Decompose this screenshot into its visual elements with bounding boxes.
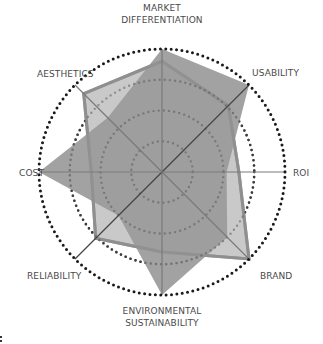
axis-label-environmental-sustainability: ENVIRONMENTALSUSTAINABILITY [123,306,202,328]
axis-label-line: AESTHETICS [37,69,94,79]
axis-label-line: MARKET [143,3,181,13]
axis-label-brand: BRAND [260,271,292,281]
axis-label-line: USABILITY [252,68,299,78]
axis-label-line: ROI [293,168,309,178]
axis-label-line: COST [19,168,44,178]
axis-label-roi: ROI [293,168,309,178]
axis-label-cost: COST [19,168,44,178]
axis-label-line: BRAND [260,271,292,281]
corner-mark [0,336,3,343]
axis-label-market-differentiation: MARKETDIFFERENTIATION [121,3,202,25]
axis-label-aesthetics: AESTHETICS [37,69,94,79]
axis-label-line: ENVIRONMENTAL [123,306,202,316]
axis-label-reliability: RELIABILITY [27,271,82,281]
radar-chart: MARKETDIFFERENTIATIONUSABILITYROIBRANDEN… [0,0,323,344]
axis-label-usability: USABILITY [252,68,299,78]
axis-label-line: DIFFERENTIATION [121,15,202,25]
axis-label-line: RELIABILITY [27,271,82,281]
axis-label-line: SUSTAINABILITY [125,318,199,328]
